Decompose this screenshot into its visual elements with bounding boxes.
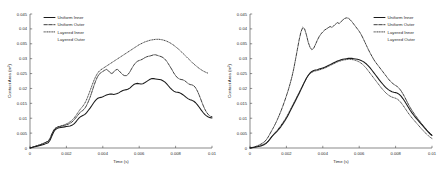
- y-tick-label: 0.035: [17, 41, 28, 46]
- legend-label: Layered Outer: [388, 37, 416, 42]
- y-tick-label: 0.02: [19, 86, 28, 91]
- legend: Uniform InnerUniform OuterLayered InnerL…: [374, 15, 416, 42]
- y-tick-label: 0.015: [237, 101, 248, 106]
- y-tick-label: 0.02: [239, 86, 248, 91]
- y-axis-label: Contact Area (m²): [7, 63, 12, 97]
- y-tick-label: 0: [25, 146, 28, 151]
- x-tick-label: 0.004: [98, 151, 109, 156]
- y-tick-label: 0.03: [19, 56, 28, 61]
- y-axis-label: Contact Area (m²): [227, 63, 232, 97]
- x-axis-label: Time (s): [333, 159, 349, 164]
- plot-svg-left: 00.0050.010.0150.020.0250.030.0350.040.0…: [0, 0, 220, 172]
- contact-area-vs-time-chart-right: 00.0050.010.0150.020.0250.030.0350.040.0…: [220, 0, 440, 172]
- y-tick-label: 0: [245, 146, 248, 151]
- legend-label: Layered Inner: [58, 30, 85, 35]
- x-tick-label: 0.006: [134, 151, 145, 156]
- y-tick-label: 0.045: [237, 12, 248, 17]
- x-tick-label: 0.01: [428, 151, 437, 156]
- x-tick-label: 0.004: [318, 151, 329, 156]
- legend-label: Uniform Outer: [388, 22, 416, 27]
- x-axis-ticks: 00.0020.0040.0060.0080.01: [249, 146, 437, 156]
- x-tick-label: 0: [249, 151, 252, 156]
- y-tick-label: 0.005: [237, 131, 248, 136]
- y-tick-label: 0.04: [239, 26, 248, 31]
- legend-label: Layered Inner: [388, 30, 415, 35]
- x-tick-label: 0.002: [61, 151, 72, 156]
- x-tick-label: 0.01: [208, 151, 217, 156]
- legend-label: Uniform Inner: [388, 15, 415, 20]
- y-tick-label: 0.025: [237, 71, 248, 76]
- x-tick-label: 0.006: [354, 151, 365, 156]
- legend-label: Uniform Outer: [58, 22, 86, 27]
- x-tick-label: 0.008: [390, 151, 401, 156]
- x-tick-label: 0: [29, 151, 32, 156]
- plot-svg-right: 00.0050.010.0150.020.0250.030.0350.040.0…: [220, 0, 440, 172]
- series-group: [30, 39, 212, 148]
- x-tick-label: 0.008: [170, 151, 181, 156]
- y-tick-label: 0.025: [17, 71, 28, 76]
- x-axis-label: Time (s): [113, 159, 129, 164]
- figure-container: 00.0050.010.0150.020.0250.030.0350.040.0…: [0, 0, 440, 172]
- y-tick-label: 0.03: [239, 56, 248, 61]
- series-line: [30, 79, 212, 148]
- series-line: [250, 59, 432, 148]
- y-tick-label: 0.01: [239, 116, 248, 121]
- x-tick-label: 0.002: [281, 151, 292, 156]
- y-tick-label: 0.015: [17, 101, 28, 106]
- contact-area-vs-time-chart-left: 00.0050.010.0150.020.0250.030.0350.040.0…: [0, 0, 220, 172]
- y-tick-label: 0.01: [19, 116, 28, 121]
- y-tick-label: 0.035: [237, 41, 248, 46]
- legend-label: Uniform Inner: [58, 15, 85, 20]
- legend: Uniform InnerUniform OuterLayered InnerL…: [44, 15, 86, 42]
- series-line: [30, 55, 212, 148]
- y-tick-label: 0.005: [17, 131, 28, 136]
- y-tick-label: 0.045: [17, 12, 28, 17]
- legend-label: Layered Outer: [58, 37, 86, 42]
- series-line: [250, 58, 432, 148]
- y-tick-label: 0.04: [19, 26, 28, 31]
- x-axis-ticks: 00.0020.0040.0060.0080.01: [29, 146, 217, 156]
